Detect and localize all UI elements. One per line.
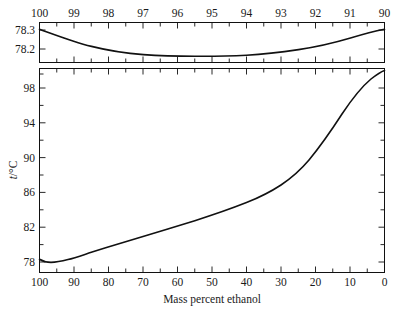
inset-xtick-label: 90: [379, 7, 391, 19]
main-ytick-label: 90: [24, 152, 36, 164]
inset-xtick-label: 98: [103, 7, 115, 19]
main-ytick-label: 98: [24, 82, 36, 94]
inset-y-axis-ticks: [40, 30, 46, 49]
inset-xtick-label: 97: [137, 7, 149, 19]
inset-xtick-label: 92: [310, 7, 322, 19]
main-panel: [40, 69, 385, 273]
main-xtick-label: 50: [206, 276, 218, 288]
inset-top-tick-labels: 100 99 98 97 96 95 94 93 92 91 90: [31, 7, 391, 19]
chart-svg: 100 99 98 97 96 95 94 93 92 91 90 78.3 7…: [0, 0, 407, 314]
inset-bottom-axis-ticks: [40, 57, 385, 63]
y-axis-title: t/°C: [7, 160, 19, 179]
main-boiling-curve: [40, 70, 385, 262]
main-xtick-label: 40: [241, 276, 253, 288]
inset-y-tick-labels: 78.3 78.2: [15, 24, 35, 55]
main-ytick-label: 82: [24, 221, 36, 233]
inset-ytick-label: 78.2: [15, 43, 35, 55]
inset-top-panel: [40, 23, 385, 63]
inset-xtick-label: 99: [68, 7, 80, 19]
inset-xtick-label: 94: [241, 7, 253, 19]
inset-xtick-label: 93: [275, 7, 287, 19]
inset-y-axis-right-ticks: [379, 30, 385, 49]
main-top-edge-ticks: [40, 69, 385, 75]
main-xtick-label: 80: [103, 276, 115, 288]
main-panel-frame: [40, 69, 385, 273]
main-xtick-label: 90: [68, 276, 80, 288]
inset-ytick-label: 78.3: [15, 24, 35, 36]
main-xtick-label: 10: [344, 276, 356, 288]
main-y-axis-minor-ticks: [40, 74, 44, 245]
main-xtick-label: 0: [382, 276, 388, 288]
x-axis-title: Mass percent ethanol: [163, 293, 261, 306]
main-x-tick-labels: 100 90 80 70 60 50 40 30 20 10 0: [31, 276, 388, 288]
inset-xtick-label: 91: [344, 7, 356, 19]
main-xtick-label: 100: [31, 276, 49, 288]
main-bottom-axis-ticks: [40, 267, 385, 273]
main-xtick-label: 70: [137, 276, 149, 288]
y-axis-title-unit: /°C: [7, 160, 19, 176]
inset-xtick-label: 95: [206, 7, 218, 19]
svg-text:t/°C: t/°C: [7, 160, 19, 179]
main-y-tick-labels: 98 94 90 86 82 78: [24, 82, 36, 268]
boiling-point-diagram-figure: 100 99 98 97 96 95 94 93 92 91 90 78.3 7…: [0, 0, 407, 314]
main-ytick-label: 94: [24, 117, 36, 129]
main-ytick-label: 86: [24, 186, 36, 198]
main-ytick-label: 78: [24, 256, 36, 268]
main-xtick-label: 20: [310, 276, 322, 288]
inset-xtick-label: 100: [31, 7, 49, 19]
main-xtick-label: 60: [172, 276, 184, 288]
inset-boiling-curve: [40, 29, 385, 56]
main-y-axis-right-ticks: [379, 88, 385, 262]
inset-xtick-label: 96: [172, 7, 184, 19]
main-xtick-label: 30: [275, 276, 287, 288]
